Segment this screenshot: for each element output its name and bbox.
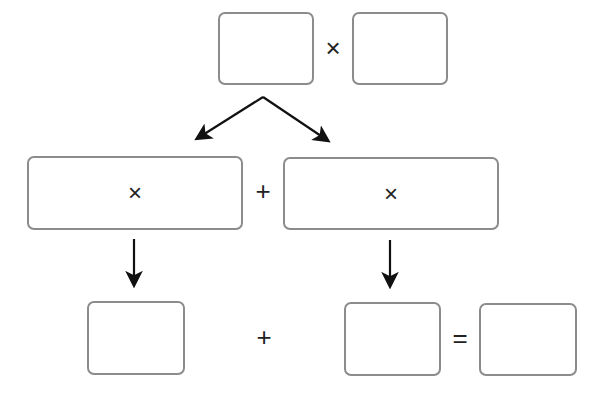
bottom-right-box[interactable] [479,303,577,376]
bottom-plus-operator: + [256,324,271,350]
middle-right-box[interactable]: × [283,157,499,230]
bottom-middle-box[interactable] [344,302,441,376]
middle-left-box[interactable]: × [27,156,243,230]
split-arrow-left-icon [198,97,263,138]
bottom-equals-operator: = [452,325,467,351]
top-times-operator: × [325,35,340,61]
top-right-box[interactable] [352,12,448,85]
split-arrow-right-icon [263,97,327,140]
middle-plus-operator: + [255,178,270,204]
top-left-box[interactable] [218,12,314,85]
bottom-left-box[interactable] [87,301,185,375]
